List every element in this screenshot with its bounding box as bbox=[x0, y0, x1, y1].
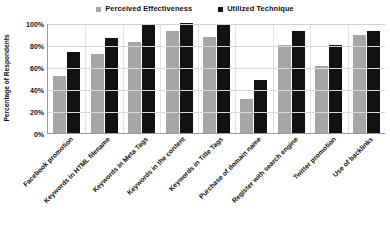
bar bbox=[67, 52, 80, 133]
bar-group bbox=[160, 24, 197, 133]
y-axis-tick-label: 60% bbox=[30, 65, 44, 72]
legend-label: Perceived Effectiveness bbox=[105, 5, 192, 12]
legend-swatch-icon bbox=[96, 7, 101, 12]
bar bbox=[128, 42, 141, 133]
y-axis-title-text: Percentage of Respondents bbox=[3, 34, 10, 121]
bar bbox=[180, 23, 193, 133]
bar bbox=[254, 80, 267, 133]
gridline bbox=[48, 112, 385, 113]
bar bbox=[315, 66, 328, 133]
y-axis-tick-label: 80% bbox=[30, 43, 44, 50]
bar bbox=[91, 54, 104, 133]
bar bbox=[353, 35, 366, 133]
x-axis-tick-labels: Facebook promotionKeywords in HTML filen… bbox=[47, 136, 385, 232]
legend-item-utilized-technique: Utilized Technique bbox=[218, 5, 294, 12]
legend-swatch-icon bbox=[218, 7, 223, 12]
bar-group bbox=[85, 24, 122, 133]
chart-legend: Perceived Effectiveness Utilized Techniq… bbox=[0, 2, 390, 16]
legend-item-perceived-effectiveness: Perceived Effectiveness bbox=[96, 5, 192, 12]
y-axis-tick-labels: 0%20%40%60%80%100% bbox=[13, 24, 46, 134]
y-axis-tick-label: 100% bbox=[26, 21, 44, 28]
bar bbox=[329, 45, 342, 133]
bar-group bbox=[273, 24, 310, 133]
bar bbox=[240, 99, 253, 133]
y-axis-title: Percentage of Respondents bbox=[0, 22, 13, 134]
y-axis-tick-label: 0% bbox=[34, 131, 44, 138]
bar-groups bbox=[48, 24, 385, 133]
gridline bbox=[48, 90, 385, 91]
bar-group bbox=[198, 24, 235, 133]
x-axis-tick-label: Twitter promotion bbox=[292, 136, 337, 181]
gridline bbox=[48, 46, 385, 47]
x-axis-tick-label: Keywords in HTML filename bbox=[43, 136, 112, 205]
gridline bbox=[48, 24, 385, 25]
bar-group bbox=[48, 24, 85, 133]
bar-group bbox=[310, 24, 347, 133]
bar bbox=[278, 45, 291, 133]
bar bbox=[142, 25, 155, 133]
x-axis-tick-label: Register with search engine bbox=[231, 136, 300, 205]
bar-group bbox=[348, 24, 385, 133]
bar bbox=[203, 37, 216, 133]
y-axis-tick-label: 40% bbox=[30, 87, 44, 94]
bar-chart: Perceived Effectiveness Utilized Techniq… bbox=[0, 0, 390, 232]
x-axis-tick-label: Use of backlinks bbox=[332, 136, 375, 179]
bar-group bbox=[123, 24, 160, 133]
bar bbox=[105, 38, 118, 133]
bar bbox=[53, 76, 66, 133]
legend-label: Utilized Technique bbox=[227, 5, 294, 12]
plot-area bbox=[47, 24, 385, 134]
gridline bbox=[48, 68, 385, 69]
y-axis-tick-label: 20% bbox=[30, 109, 44, 116]
bar bbox=[217, 24, 230, 133]
bar-group bbox=[235, 24, 272, 133]
